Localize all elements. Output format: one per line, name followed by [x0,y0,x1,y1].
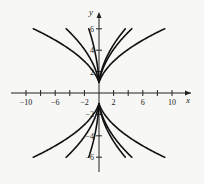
x-tick-label: −10 [20,98,33,107]
x-axis-label: x [185,95,190,105]
solution-curve [66,29,99,83]
x-tick-label: −6 [51,98,60,107]
y-axis-arrow [97,12,102,18]
solution-curves-chart: −10−6−22610642−2−4−6 x y [0,0,204,184]
solution-curve [66,104,99,158]
solution-curve [99,104,132,158]
x-tick-label: −2 [80,98,89,107]
x-tick-label: 10 [168,98,176,107]
y-axis-label: y [88,7,93,17]
labels: x y [88,7,190,105]
axes: −10−6−22610642−2−4−6 [11,12,191,172]
solution-curve [99,29,132,83]
x-tick-label: 6 [141,98,145,107]
x-tick-label: 2 [112,98,116,107]
